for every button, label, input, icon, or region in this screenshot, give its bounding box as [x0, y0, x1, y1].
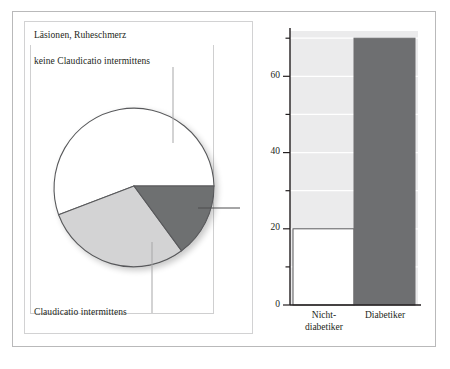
pie-title: Läsionen, Ruheschmerz — [34, 30, 126, 40]
xcat-nicht-line1: Nicht- — [312, 310, 336, 320]
ytick-label-40: 40 — [258, 146, 280, 156]
ytick-label-20: 20 — [258, 222, 280, 232]
ytick-label-0: 0 — [258, 299, 280, 309]
pie-slice-label-claudication: Claudicatio intermittens — [34, 307, 127, 317]
xcat-label-diabetiker: Diabetiker — [352, 310, 418, 322]
pie-callout-box — [30, 45, 214, 314]
figure-container: Läsionen, Ruheschmerz keine Claudicatio … — [0, 0, 450, 369]
bar-chart-y-axis-label: % Beteiligung unterhalb des Knies — [289, 57, 299, 227]
ytick-label-60: 60 — [258, 70, 280, 80]
xcat-nicht-line2: diabetiker — [305, 322, 343, 332]
bar-chart-panel: % Beteiligung unterhalb des Knies — [258, 21, 430, 334]
xcat-label-nicht-diabetiker: Nicht- diabetiker — [288, 310, 360, 333]
xcat-diabetiker-line1: Diabetiker — [365, 310, 405, 320]
pie-slice-label-no-claudication: keine Claudicatio intermittens — [34, 56, 150, 66]
